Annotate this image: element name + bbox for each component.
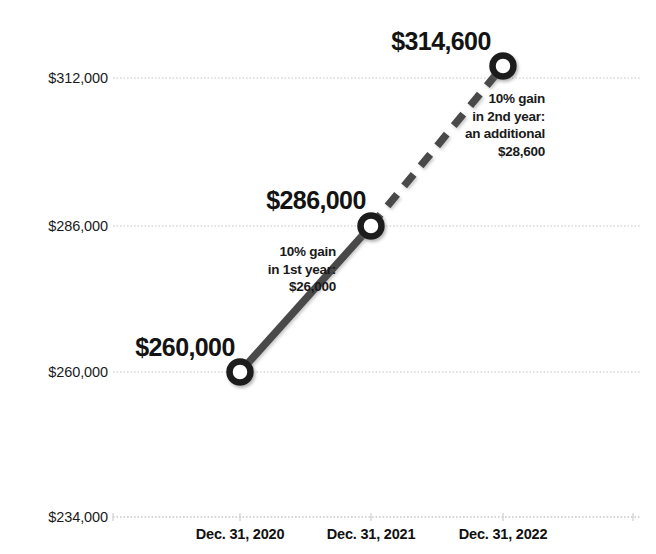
value-callout-260000: $260,000	[135, 333, 234, 362]
value-callout-286000: $286,000	[266, 186, 365, 215]
data-point-2022[interactable]	[493, 56, 514, 77]
gridlines	[113, 78, 641, 517]
x-axis-label-2022: Dec. 31, 2022	[459, 526, 548, 542]
annotation-first-line-3: $26,000	[216, 278, 336, 296]
data-point-2021[interactable]	[361, 216, 382, 237]
annotation-second-line-2: in 2nd year:	[410, 108, 545, 126]
x-axis-label-2020: Dec. 31, 2020	[196, 526, 285, 542]
annotation-first-year-gain: 10% gain in 1st year: $26,000	[216, 243, 336, 296]
y-axis-label-260000: $260,000	[0, 364, 108, 380]
annotation-second-line-3: an additional	[410, 125, 545, 143]
annotation-second-line-4: $28,600	[410, 143, 545, 161]
annotation-first-line-1: 10% gain	[216, 243, 336, 261]
chart-container: $312,000 $286,000 $260,000 $234,000 Dec.…	[0, 0, 656, 554]
x-axis-label-2021: Dec. 31, 2021	[327, 526, 416, 542]
y-axis-label-312000: $312,000	[0, 70, 108, 86]
annotation-second-line-1: 10% gain	[410, 90, 545, 108]
annotation-first-line-2: in 1st year:	[216, 261, 336, 279]
value-callout-314600: $314,600	[391, 27, 490, 56]
y-axis-label-286000: $286,000	[0, 218, 108, 234]
data-point-2020[interactable]	[230, 362, 251, 383]
y-axis-label-234000: $234,000	[0, 509, 108, 525]
annotation-second-year-gain: 10% gain in 2nd year: an additional $28,…	[410, 90, 545, 160]
